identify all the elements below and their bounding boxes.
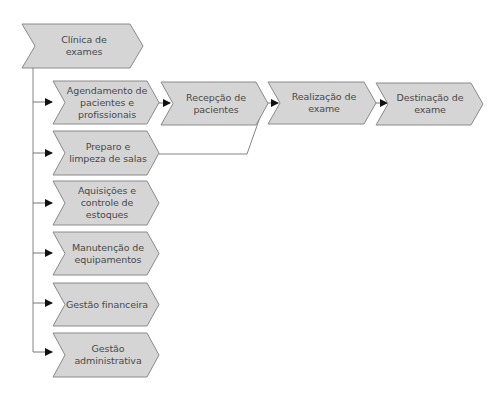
branch-label-2: Preparo e limpeza de salas	[68, 132, 148, 174]
branch-label-6: Gestão administrativa	[62, 334, 154, 376]
branch-label-5: Gestão financeira	[64, 284, 150, 325]
root-label: Clínica de exames	[44, 26, 124, 66]
flow-label-3: Destinação de exame	[385, 84, 475, 124]
branch-label-1: Agendamento de pacientes e profissionais	[66, 82, 148, 123]
branch-label-3: Aquisições e controle de estoques	[64, 182, 150, 224]
branch-label-4: Manutenção de equipamentos	[68, 233, 148, 274]
flow-label-2: Realização de exame	[284, 83, 364, 123]
flow-label-1: Recepção de pacientes	[170, 83, 262, 124]
